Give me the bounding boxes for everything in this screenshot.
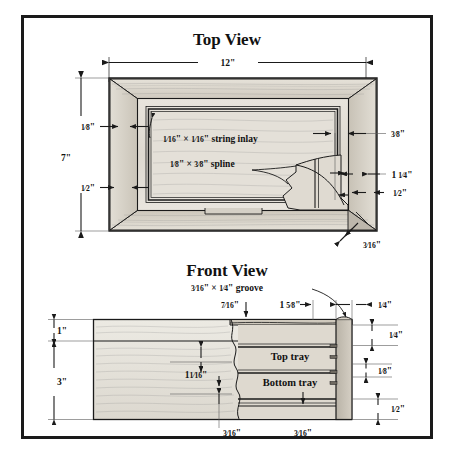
topview-frame — [109, 78, 377, 231]
topview-corner-label: 3⁄16" — [363, 240, 381, 250]
top-view-title: Top View — [193, 30, 262, 49]
topview-spline-note: 1⁄8" × 3⁄8" spline — [170, 159, 235, 169]
frontview-bottom-b-label: 3⁄16" — [294, 428, 312, 438]
frontview-body: Top tray Bottom tray — [94, 317, 353, 420]
plan-svg: Top View 12" — [0, 0, 452, 455]
frontview-right-2-label: 1⁄8" — [378, 366, 392, 376]
frontview-top-a-label: 7⁄16" — [221, 300, 239, 310]
frontview-left-bottom-label: 3" — [57, 377, 67, 387]
topview-spline-label: 1⁄8" × 3⁄8" spline — [170, 159, 235, 169]
topview-right-mid-label: 1 1⁄4" — [392, 170, 413, 180]
frontview-top-c-label: 1⁄4" — [378, 300, 392, 310]
frontview-bottom-tray-label: Bottom tray — [263, 377, 318, 388]
topview-right-bottom-label: 1⁄2" — [393, 188, 407, 198]
frontview-top-b-label: 1 5⁄8" — [280, 300, 301, 310]
frontview-groove-label: 3⁄16" × 1⁄4" groove — [191, 283, 263, 293]
frontview-bottom-a-label: 3⁄16" — [223, 428, 241, 438]
front-view-title: Front View — [186, 261, 268, 280]
frontview-top-tray-label: Top tray — [271, 351, 310, 362]
topview-height-label: 7" — [61, 153, 71, 163]
topview-inlay-label: 1⁄16" × 1⁄16" string inlay — [163, 134, 258, 144]
topview-left-bottom-label: 1⁄2" — [81, 183, 95, 193]
frontview-right-3-label: 1⁄2" — [391, 404, 405, 414]
frontview-right-1-label: 1⁄4" — [389, 330, 403, 340]
topview-left-top-label: 1⁄8" — [81, 122, 95, 132]
frontview-inner-label: 11⁄16" — [185, 370, 208, 380]
plan-figure: Top View 12" — [0, 0, 452, 455]
topview-right-top-label: 3⁄8" — [391, 129, 405, 139]
frontview-left-top-label: 1" — [57, 326, 67, 336]
topview-width-label: 12" — [221, 58, 236, 68]
